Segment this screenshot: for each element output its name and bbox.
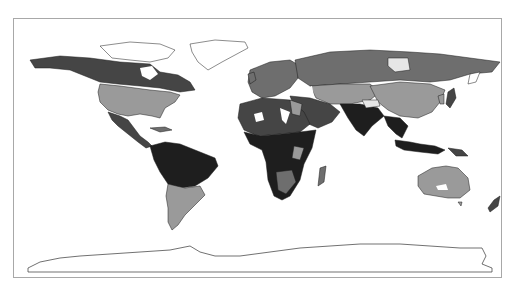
region-indonesia — [395, 140, 445, 154]
region-new-zealand — [488, 196, 500, 212]
region-greenland — [190, 40, 248, 70]
region-south-asia — [340, 104, 384, 136]
region-south-america-south — [166, 184, 205, 230]
region-madagascar — [318, 166, 326, 186]
region-kamchatka — [468, 72, 480, 84]
region-caribbean — [150, 127, 172, 132]
region-southeast-asia — [384, 116, 408, 138]
world-map — [0, 0, 529, 295]
region-australia — [418, 166, 470, 198]
region-japan — [446, 88, 456, 108]
region-new-guinea — [448, 148, 468, 156]
region-mexico-central-america — [108, 112, 152, 148]
region-tasmania — [458, 202, 462, 206]
region-canada-arctic — [100, 42, 175, 62]
region-antarctica — [28, 244, 492, 272]
region-south-america-north — [150, 142, 218, 188]
